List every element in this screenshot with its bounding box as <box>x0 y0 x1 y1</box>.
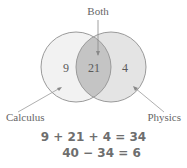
both-count: 21 <box>88 61 100 75</box>
equation-difference: 40 − 34 = 6 <box>8 146 187 160</box>
both-label: Both <box>87 5 109 17</box>
calculus-pointer-line <box>18 88 60 112</box>
calculus-label: Calculus <box>6 111 45 123</box>
physics-label: Physics <box>147 111 181 123</box>
physics-pointer-line <box>135 88 164 112</box>
right-only-count: 4 <box>122 61 128 75</box>
left-only-count: 9 <box>63 61 69 75</box>
equation-sum: 9 + 21 + 4 = 34 <box>0 130 187 144</box>
